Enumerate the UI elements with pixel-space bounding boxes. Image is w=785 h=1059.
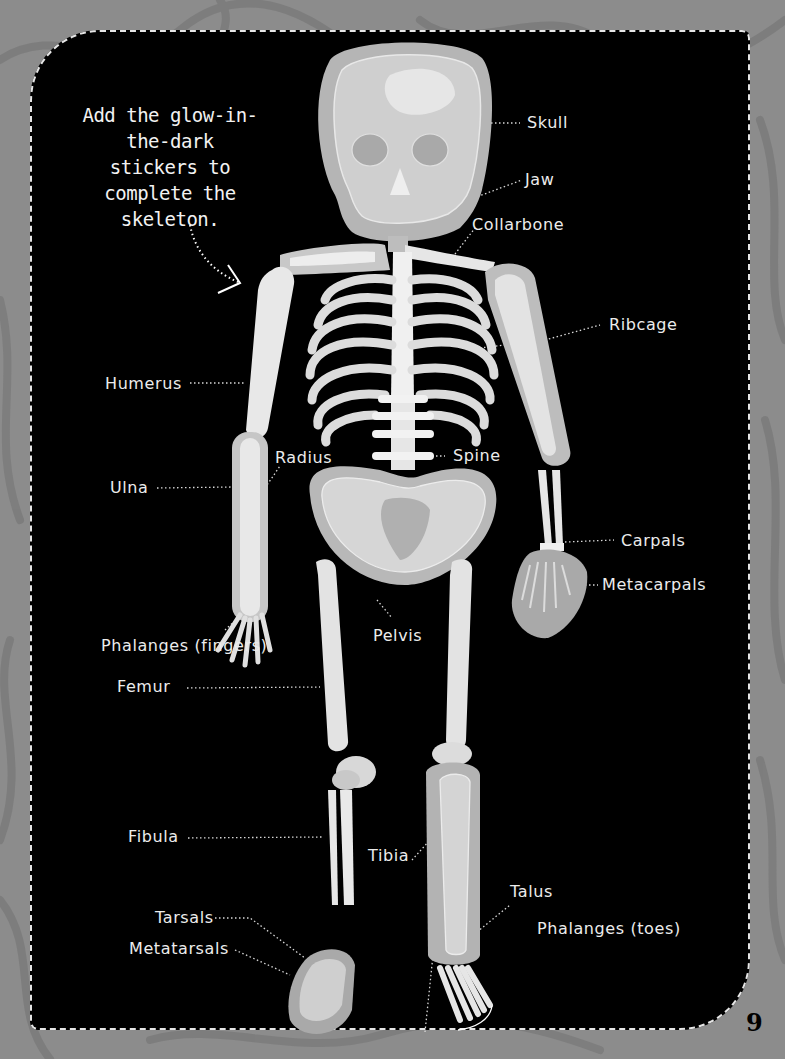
skull-bone [318,42,492,241]
label-tibia: Tibia [368,846,409,865]
label-humerus: Humerus [105,374,182,393]
label-ribcage: Ribcage [609,315,678,334]
book-page: Add the glow-in-the-dark stickers to com… [0,0,785,1059]
label-talus: Talus [510,882,553,901]
label-spine: Spine [453,446,501,465]
label-skull: Skull [527,113,568,132]
label-fibula: Fibula [128,827,179,846]
label-jaw: Jaw [525,170,554,189]
label-carpals: Carpals [621,531,686,550]
label-phalanges-toes: Phalanges (toes) [537,919,681,938]
label-tarsals: Tarsals [155,908,214,927]
page-number: 9 [746,1008,763,1037]
label-pelvis: Pelvis [373,626,422,645]
instruction-text: Add the glow-in-the-dark stickers to com… [80,102,260,232]
label-collarbone: Collarbone [472,215,564,234]
label-phalanges-fingers: Phalanges (fingers) [101,636,267,655]
label-radius: Radius [275,448,332,467]
label-metacarpals: Metacarpals [602,575,706,594]
label-ulna: Ulna [110,478,149,497]
label-metatarsals: Metatarsals [129,939,229,958]
label-femur: Femur [117,677,170,696]
